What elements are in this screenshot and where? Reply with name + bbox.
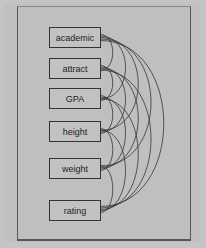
variable-box-attract[interactable]: attract	[49, 58, 101, 79]
variable-box-academic[interactable]: academic	[49, 27, 101, 48]
covariance-arcs	[0, 0, 206, 248]
variable-box-gpa[interactable]: GPA	[49, 88, 101, 109]
variable-box-rating[interactable]: rating	[49, 200, 101, 221]
variable-box-weight[interactable]: weight	[49, 158, 101, 179]
variable-box-height[interactable]: height	[49, 121, 101, 142]
